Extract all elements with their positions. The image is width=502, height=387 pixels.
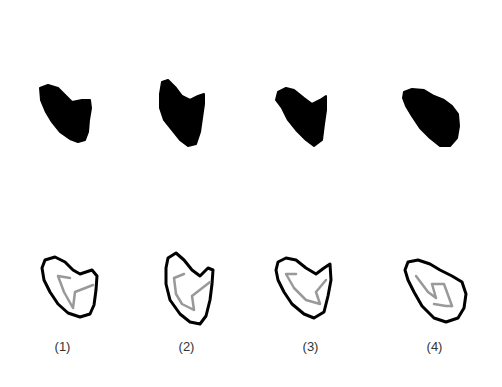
panel-1-graphic <box>0 0 125 387</box>
outlined-silhouette <box>405 260 466 322</box>
panel-2-graphic <box>124 0 249 387</box>
panel-2: (2) <box>124 0 249 387</box>
panel-label: (1) <box>0 339 125 354</box>
skeleton-line-bottom <box>434 304 452 306</box>
panel-4: (4) <box>372 0 497 387</box>
skeleton-line <box>174 274 210 310</box>
panel-3-graphic <box>248 0 373 387</box>
filled-silhouette <box>40 85 91 142</box>
filled-silhouette <box>403 89 459 146</box>
panel-4-graphic <box>372 0 497 387</box>
filled-silhouette <box>160 80 204 146</box>
panel-label: (4) <box>372 339 497 354</box>
panel-3: (3) <box>248 0 373 387</box>
panel-1: (1) <box>0 0 125 387</box>
panel-label: (3) <box>248 339 373 354</box>
shape-figure: (1) (2) (3) (4) <box>0 0 502 387</box>
outlined-silhouette <box>276 258 331 318</box>
skeleton-line <box>286 274 326 304</box>
skeleton-line <box>416 276 452 306</box>
skeleton-line <box>58 276 93 308</box>
filled-silhouette <box>276 88 326 146</box>
outlined-silhouette <box>166 253 213 324</box>
panel-label: (2) <box>124 339 249 354</box>
